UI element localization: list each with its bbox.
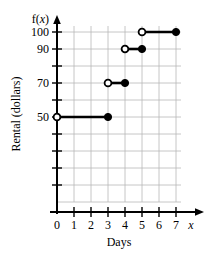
- y-axis-symbol-label: f(x): [32, 12, 49, 26]
- x-tick-label-6: 6: [156, 218, 162, 232]
- x-tick-label-5: 5: [139, 218, 145, 232]
- y-axis-arrowhead: [53, 15, 61, 24]
- closed-endpoint-7-100: [172, 28, 179, 35]
- chart-canvas: 100 90 70 50 0 1 2 3 4 5 6 7 f(x) x Days…: [0, 0, 214, 256]
- open-endpoint-5-100: [139, 29, 146, 36]
- y-tick-labels: 100 90 70 50: [31, 25, 49, 124]
- step-function-series: [57, 32, 176, 117]
- x-tick-label-1: 1: [71, 218, 77, 232]
- x-axis: [50, 208, 204, 216]
- x-tick-label-3: 3: [105, 218, 111, 232]
- y-tick-label-70: 70: [37, 76, 49, 90]
- closed-endpoint-3-50: [104, 113, 111, 120]
- x-tick-label-2: 2: [88, 218, 94, 232]
- open-endpoint-3-70: [105, 80, 112, 87]
- x-axis-symbol-label: x: [187, 218, 194, 232]
- step-endpoints: [54, 28, 180, 120]
- y-axis-title: Rental (dollars): [9, 77, 23, 152]
- step-function-chart: 100 90 70 50 0 1 2 3 4 5 6 7 f(x) x Days…: [0, 0, 214, 256]
- x-tick-label-0: 0: [54, 218, 60, 232]
- x-axis-title: Days: [107, 235, 132, 249]
- x-tick-label-7: 7: [173, 218, 179, 232]
- x-axis-arrowhead: [195, 208, 204, 216]
- y-tick-label-100: 100: [31, 25, 49, 39]
- open-endpoint-4-90: [122, 46, 129, 53]
- x-tick-label-4: 4: [122, 218, 128, 232]
- y-tick-label-50: 50: [37, 110, 49, 124]
- closed-endpoint-5-90: [138, 45, 145, 52]
- closed-endpoint-4-70: [121, 79, 128, 86]
- open-endpoint-0-50: [54, 114, 61, 121]
- x-tick-labels: 0 1 2 3 4 5 6 7: [54, 218, 179, 232]
- y-tick-label-90: 90: [37, 42, 49, 56]
